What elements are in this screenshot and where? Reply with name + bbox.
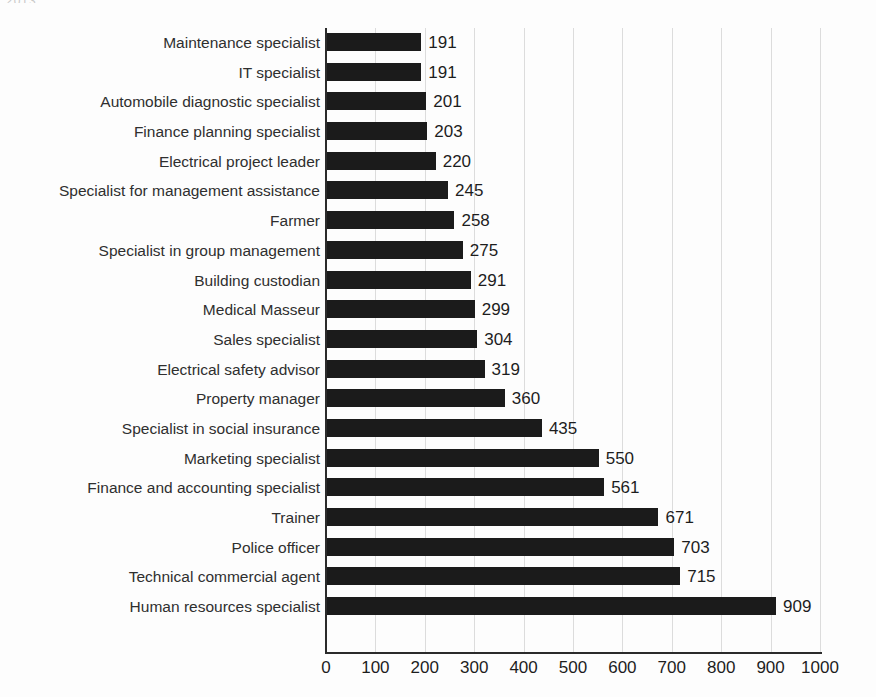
bar-value-label: 299 [475,295,510,325]
bar [327,181,448,199]
bar-row: Police officer703 [0,533,876,563]
bar-row: IT specialist191 [0,58,876,88]
bar-value-label: 191 [421,28,456,58]
bar-value-label: 550 [599,444,634,474]
bar-row: Specialist in group management275 [0,236,876,266]
category-label: IT specialist [238,58,320,88]
bar-value-label: 319 [485,355,520,385]
bar-row: Specialist for management assistance245 [0,176,876,206]
bar [327,508,658,526]
x-tick-label: 800 [707,658,735,678]
bar-value-label: 203 [427,117,462,147]
bar [327,122,427,140]
bar-value-label: 245 [448,176,483,206]
bar [327,389,505,407]
x-tick-label: 600 [608,658,636,678]
bar-row: Finance planning specialist203 [0,117,876,147]
category-label: Farmer [270,206,320,236]
x-tick-label: 900 [756,658,784,678]
bar-row: Sales specialist304 [0,325,876,355]
bar-value-label: 703 [674,533,709,563]
bar-value-label: 304 [477,325,512,355]
bar [327,478,604,496]
category-label: Trainer [271,503,320,533]
bar [327,330,477,348]
bar [327,538,674,556]
bar-value-label: 191 [421,58,456,88]
bar-value-label: 561 [604,473,639,503]
category-label: Electrical project leader [159,147,320,177]
bar-row: Medical Masseur299 [0,295,876,325]
bar-row: Electrical project leader220 [0,147,876,177]
x-tick-label: 1000 [801,658,839,678]
bar-value-label: 909 [776,592,811,622]
bar-value-label: 220 [436,147,471,177]
x-tick-label: 300 [460,658,488,678]
bar [327,63,421,81]
category-label: Sales specialist [213,325,320,355]
bar [327,567,680,585]
category-label: Human resources specialist [130,592,320,622]
category-label: Technical commercial agent [129,562,320,592]
x-axis-line [326,652,822,654]
category-label: Specialist for management assistance [59,176,320,206]
category-label: Police officer [232,533,320,563]
bar-row: Farmer258 [0,206,876,236]
x-tick-label: 200 [411,658,439,678]
bar-value-label: 435 [542,414,577,444]
bar-row: Automobile diagnostic specialist201 [0,87,876,117]
x-tick-label: 400 [509,658,537,678]
bar-value-label: 291 [471,266,506,296]
bar-row: Finance and accounting specialist561 [0,473,876,503]
bar [327,241,463,259]
category-label: Medical Masseur [203,295,320,325]
bar-value-label: 360 [505,384,540,414]
bar-value-label: 201 [426,87,461,117]
bar-row: Marketing specialist550 [0,444,876,474]
x-tick-label: 700 [658,658,686,678]
bar-row: Maintenance specialist191 [0,28,876,58]
bar [327,33,421,51]
bar [327,419,542,437]
bar [327,271,471,289]
category-label: Electrical safety advisor [157,355,320,385]
category-label: Specialist in social insurance [122,414,320,444]
bar-row: Human resources specialist909 [0,592,876,622]
horizontal-bar-chart: Maintenance specialist191IT specialist19… [0,0,876,697]
x-axis-tick-labels: 01002003004005006007008009001000 [326,658,820,686]
bar [327,597,776,615]
category-label: Building custodian [194,266,320,296]
bar-rows: Maintenance specialist191IT specialist19… [0,28,876,652]
bar-value-label: 715 [680,562,715,592]
bar-row: Property manager360 [0,384,876,414]
bar-row: Specialist in social insurance435 [0,414,876,444]
bar [327,360,485,378]
bar [327,152,436,170]
category-label: Finance and accounting specialist [87,473,320,503]
bar-value-label: 275 [463,236,498,266]
bar-row: Technical commercial agent715 [0,562,876,592]
bar [327,92,426,110]
x-tick-label: 100 [361,658,389,678]
category-label: Automobile diagnostic specialist [100,87,320,117]
bar [327,300,475,318]
category-label: Specialist in group management [99,236,320,266]
bar-row: Building custodian291 [0,266,876,296]
category-label: Maintenance specialist [163,28,320,58]
x-tick-label: 500 [559,658,587,678]
bar [327,449,599,467]
x-tick-label: 0 [321,658,330,678]
bar-row: Trainer671 [0,503,876,533]
chart-page: 2013 Maintenance specialist191IT special… [0,0,876,697]
category-label: Property manager [196,384,320,414]
category-label: Finance planning specialist [134,117,320,147]
bar-row: Electrical safety advisor319 [0,355,876,385]
bar-value-label: 258 [454,206,489,236]
category-label: Marketing specialist [184,444,320,474]
bar-value-label: 671 [658,503,693,533]
bar [327,211,454,229]
